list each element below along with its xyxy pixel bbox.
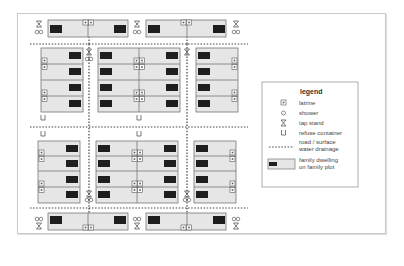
- block-bottom-left: [48, 213, 128, 230]
- legend: legend latrine shower tap stand refuse c…: [262, 82, 358, 187]
- legend-label-latrine: latrine: [299, 100, 316, 106]
- legend-label-shower: shower: [299, 110, 318, 116]
- latrine-icon: [83, 20, 88, 25]
- water-point: [232, 217, 240, 229]
- legend-label-drainage-2: water drainage: [298, 146, 339, 152]
- block-lower-left: [38, 141, 80, 203]
- family-dwelling-icon: [268, 159, 295, 169]
- camp-layout-diagram: legend latrine shower tap stand refuse c…: [0, 0, 404, 266]
- block-upper-left: [41, 48, 83, 112]
- water-point: [232, 21, 240, 34]
- latrine-icon: [281, 100, 286, 105]
- legend-label-refuse-container: refuse container: [299, 130, 342, 136]
- latrine-icon: [181, 20, 186, 25]
- block-top-left: [48, 20, 128, 37]
- legend-label-tap-stand: tap stand: [299, 120, 324, 126]
- family-dwelling: [50, 25, 62, 33]
- latrine-icon: [187, 20, 192, 25]
- block-bottom-right: [146, 213, 226, 230]
- legend-label-dwelling-2: on family plot: [299, 164, 335, 170]
- block-upper-right: [196, 48, 238, 112]
- water-point: [35, 217, 43, 229]
- family-dwelling: [114, 25, 126, 33]
- family-dwelling: [148, 25, 160, 33]
- block-lower-center: [96, 141, 178, 203]
- block-top-right: [146, 20, 226, 37]
- water-point: [35, 21, 43, 34]
- water-point: [133, 21, 141, 34]
- legend-label-dwelling-1: family dwelling: [299, 157, 338, 163]
- block-lower-right: [194, 141, 236, 203]
- block-upper-center: [98, 48, 180, 112]
- family-dwelling: [213, 25, 225, 33]
- legend-title: legend: [300, 88, 323, 96]
- latrine-icon: [89, 20, 94, 25]
- refuse-containers: [41, 115, 141, 136]
- water-point: [133, 217, 141, 229]
- legend-label-drainage-1: road / surface: [299, 139, 336, 145]
